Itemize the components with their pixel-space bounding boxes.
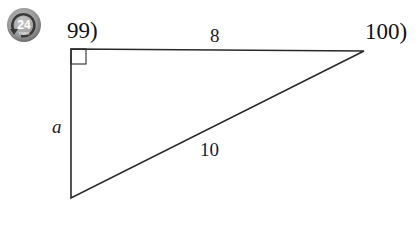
- right-angle-marker: [71, 49, 86, 64]
- side-label-hypotenuse: 10: [200, 140, 219, 159]
- side-label-left: a: [52, 117, 62, 136]
- triangle-outline: [71, 49, 364, 198]
- side-label-top: 8: [210, 26, 220, 45]
